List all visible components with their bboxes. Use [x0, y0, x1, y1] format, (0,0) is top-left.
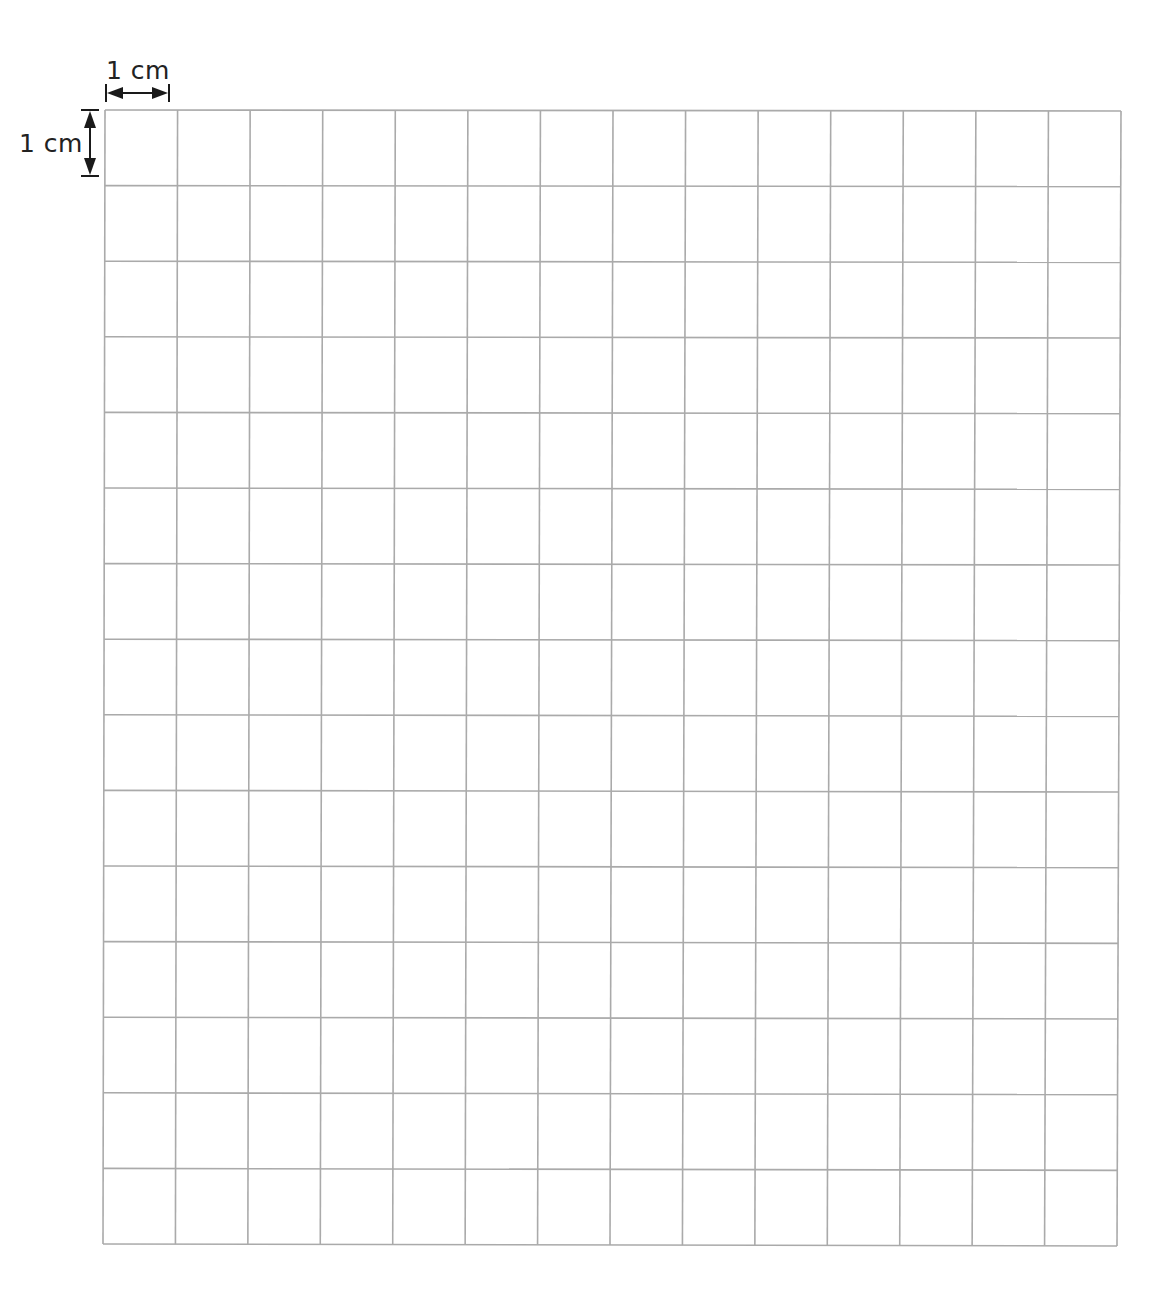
grid-horizontal-line [104, 639, 1119, 640]
grid-vertical-line [248, 110, 250, 1244]
grid-vertical-line [900, 111, 904, 1246]
grid-horizontal-line [104, 790, 1119, 792]
grid-vertical-line [972, 111, 976, 1246]
grid-vertical-line [538, 110, 541, 1244]
grid-horizontal-line [103, 1093, 1117, 1095]
grid-horizontal-line [105, 186, 1121, 187]
grid-horizontal-line [104, 564, 1119, 565]
grid-horizontal-line [104, 715, 1119, 717]
grid-vertical-line [1117, 111, 1121, 1246]
grid-horizontal-line [105, 337, 1121, 338]
grid-vertical-line [103, 110, 105, 1244]
grid-horizontal-line [105, 261, 1121, 262]
grid-vertical-line [827, 111, 830, 1246]
grid-vertical-line [755, 111, 758, 1246]
grid-vertical-line [465, 110, 468, 1244]
grid-vertical-line [393, 110, 396, 1244]
grid-horizontal-line [103, 1168, 1117, 1170]
grid-vertical-line [175, 110, 177, 1244]
grid-horizontal-line [103, 1017, 1117, 1019]
grid-horizontal-line [104, 866, 1119, 868]
grid-vertical-line [320, 110, 322, 1244]
square-grid [0, 0, 1169, 1298]
grid-horizontal-line [104, 488, 1119, 489]
grid-horizontal-line [103, 1244, 1117, 1246]
grid-vertical-line [610, 111, 613, 1246]
grid-vertical-line [682, 111, 685, 1246]
grid-vertical-line [1045, 111, 1049, 1246]
grid-horizontal-line [105, 110, 1121, 111]
grid-horizontal-line [104, 942, 1119, 944]
grid-horizontal-line [104, 412, 1119, 413]
